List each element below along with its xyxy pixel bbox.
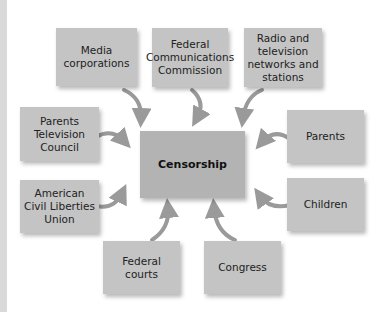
- node-label: Congress: [215, 261, 270, 274]
- node-congress: Congress: [204, 241, 281, 294]
- arrow-children: [260, 196, 290, 206]
- node-label: Federal Communications Commission: [143, 38, 237, 77]
- node-children: Children: [287, 178, 364, 231]
- node-label: Parents Television Council: [20, 115, 99, 154]
- node-fcc: Federal Communications Commission: [152, 28, 228, 87]
- arrow-ptc: [96, 133, 124, 141]
- node-parents-television-council: Parents Television Council: [20, 107, 99, 161]
- arrow-courts: [152, 208, 168, 240]
- center-node-censorship: Censorship: [140, 131, 245, 198]
- center-label: Censorship: [155, 158, 230, 171]
- node-label: American Civil Liberties Union: [20, 187, 99, 226]
- node-label: Children: [301, 198, 351, 211]
- node-label: Radio and television networks and statio…: [244, 32, 322, 84]
- arrow-media: [124, 90, 141, 118]
- node-parents: Parents: [287, 110, 364, 163]
- arrow-fcc: [192, 90, 201, 118]
- arrow-congress: [214, 208, 235, 240]
- node-label: Federal courts: [103, 255, 180, 281]
- node-aclu: American Civil Liberties Union: [20, 180, 99, 233]
- node-label: Media corporations: [56, 44, 137, 70]
- node-federal-courts: Federal courts: [103, 241, 180, 294]
- node-media-corporations: Media corporations: [56, 28, 137, 86]
- node-label: Parents: [303, 130, 348, 143]
- arrow-radio: [243, 90, 262, 118]
- arrow-aclu: [96, 193, 122, 207]
- arrow-parents: [262, 134, 290, 142]
- node-radio-tv-networks: Radio and television networks and statio…: [244, 28, 322, 87]
